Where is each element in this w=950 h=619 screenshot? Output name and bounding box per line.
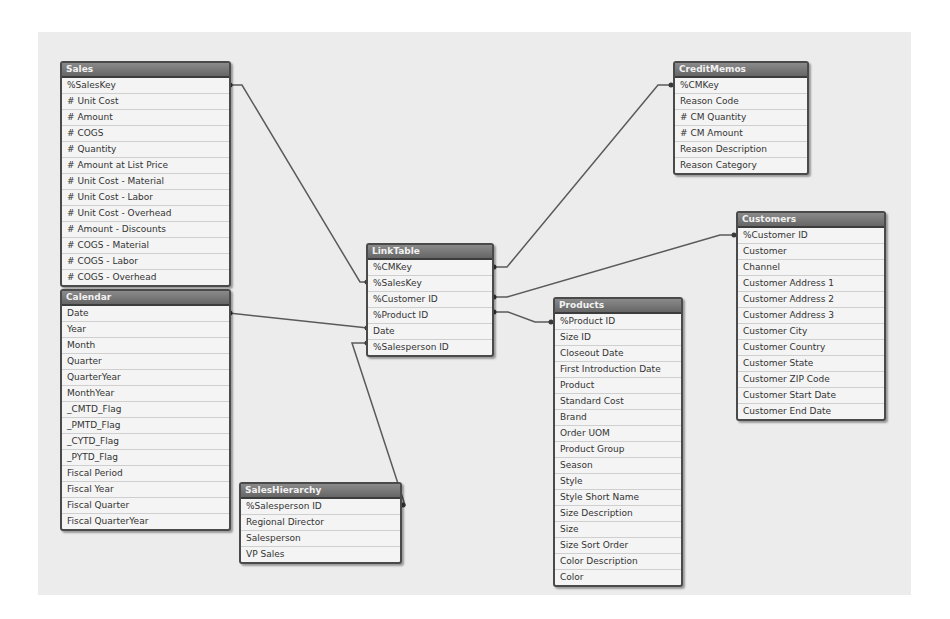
field-row[interactable]: Year [62, 322, 229, 338]
field-row[interactable]: Customer State [738, 356, 884, 372]
field-row[interactable]: %Product ID [368, 308, 492, 324]
field-row[interactable]: Season [555, 458, 681, 474]
field-row[interactable]: _CYTD_Flag [62, 434, 229, 450]
table-linktable[interactable]: LinkTable %CMKey %SalesKey %Customer ID … [366, 243, 494, 357]
field-row[interactable]: Order UOM [555, 426, 681, 442]
field-row[interactable]: Size Sort Order [555, 538, 681, 554]
field-row[interactable]: # COGS - Material [62, 238, 229, 254]
field-row[interactable]: %Salesperson ID [368, 340, 492, 355]
field-row[interactable]: MonthYear [62, 386, 229, 402]
field-row[interactable]: Customer End Date [738, 404, 884, 419]
table-products[interactable]: Products %Product ID Size ID Closeout Da… [553, 297, 683, 587]
field-row[interactable]: Closeout Date [555, 346, 681, 362]
field-row[interactable]: Salesperson [241, 531, 400, 547]
field-row[interactable]: # Unit Cost - Material [62, 174, 229, 190]
field-row[interactable]: Customer Address 2 [738, 292, 884, 308]
field-row[interactable]: # Amount [62, 110, 229, 126]
field-row[interactable]: _PMTD_Flag [62, 418, 229, 434]
field-row[interactable]: Color [555, 570, 681, 585]
field-row[interactable]: Fiscal Period [62, 466, 229, 482]
field-row[interactable]: Quarter [62, 354, 229, 370]
field-row[interactable]: # Quantity [62, 142, 229, 158]
table-calendar[interactable]: Calendar Date Year Month Quarter Quarter… [60, 289, 231, 531]
field-row[interactable]: Style [555, 474, 681, 490]
field-row[interactable]: Reason Code [675, 94, 807, 110]
field-row[interactable]: # COGS - Labor [62, 254, 229, 270]
field-row[interactable]: # Amount at List Price [62, 158, 229, 174]
field-row[interactable]: %SalesKey [368, 276, 492, 292]
table-header-products[interactable]: Products [555, 299, 681, 314]
field-row[interactable]: VP Sales [241, 547, 400, 562]
field-row[interactable]: # COGS - Overhead [62, 270, 229, 285]
field-row[interactable]: # Unit Cost - Labor [62, 190, 229, 206]
field-row[interactable]: Fiscal QuarterYear [62, 514, 229, 529]
field-row[interactable]: Product [555, 378, 681, 394]
field-row[interactable]: %Salesperson ID [241, 499, 400, 515]
field-row[interactable]: Customer City [738, 324, 884, 340]
field-row[interactable]: Customer Address 1 [738, 276, 884, 292]
field-row[interactable]: Size ID [555, 330, 681, 346]
field-row[interactable]: %CMKey [675, 78, 807, 94]
table-header-saleshierarchy[interactable]: SalesHierarchy [241, 484, 400, 499]
table-header-creditmemos[interactable]: CreditMemos [675, 63, 807, 78]
field-row[interactable]: # CM Quantity [675, 110, 807, 126]
field-row[interactable]: _PYTD_Flag [62, 450, 229, 466]
field-row[interactable]: QuarterYear [62, 370, 229, 386]
field-row[interactable]: %Product ID [555, 314, 681, 330]
table-header-linktable[interactable]: LinkTable [368, 245, 492, 260]
field-row[interactable]: Product Group [555, 442, 681, 458]
field-row[interactable]: Style Short Name [555, 490, 681, 506]
field-row[interactable]: %SalesKey [62, 78, 229, 94]
field-row[interactable]: # CM Amount [675, 126, 807, 142]
field-row[interactable]: Reason Category [675, 158, 807, 173]
table-sales[interactable]: Sales %SalesKey # Unit Cost # Amount # C… [60, 61, 231, 287]
field-row[interactable]: Customer Start Date [738, 388, 884, 404]
field-row[interactable]: Color Description [555, 554, 681, 570]
field-row[interactable]: %Customer ID [368, 292, 492, 308]
field-row[interactable]: Standard Cost [555, 394, 681, 410]
field-row[interactable]: Channel [738, 260, 884, 276]
field-row[interactable]: Date [368, 324, 492, 340]
field-row[interactable]: _CMTD_Flag [62, 402, 229, 418]
field-row[interactable]: Fiscal Quarter [62, 498, 229, 514]
field-row[interactable]: Brand [555, 410, 681, 426]
field-row[interactable]: Date [62, 306, 229, 322]
field-row[interactable]: Month [62, 338, 229, 354]
field-row[interactable]: %Customer ID [738, 228, 884, 244]
field-row[interactable]: Regional Director [241, 515, 400, 531]
field-row[interactable]: Customer ZIP Code [738, 372, 884, 388]
field-row[interactable]: Size [555, 522, 681, 538]
field-row[interactable]: Customer [738, 244, 884, 260]
field-row[interactable]: First Introduction Date [555, 362, 681, 378]
field-row[interactable]: # Amount - Discounts [62, 222, 229, 238]
field-row[interactable]: Reason Description [675, 142, 807, 158]
field-row[interactable]: Customer Country [738, 340, 884, 356]
table-header-sales[interactable]: Sales [62, 63, 229, 78]
field-row[interactable]: Fiscal Year [62, 482, 229, 498]
field-row[interactable]: # Unit Cost [62, 94, 229, 110]
field-row[interactable]: Size Description [555, 506, 681, 522]
table-header-calendar[interactable]: Calendar [62, 291, 229, 306]
field-row[interactable]: # COGS [62, 126, 229, 142]
table-customers[interactable]: Customers %Customer ID Customer Channel … [736, 211, 886, 421]
field-row[interactable]: # Unit Cost - Overhead [62, 206, 229, 222]
field-row[interactable]: Customer Address 3 [738, 308, 884, 324]
field-row[interactable]: %CMKey [368, 260, 492, 276]
table-header-customers[interactable]: Customers [738, 213, 884, 228]
table-creditmemos[interactable]: CreditMemos %CMKey Reason Code # CM Quan… [673, 61, 809, 175]
table-saleshierarchy[interactable]: SalesHierarchy %Salesperson ID Regional … [239, 482, 402, 564]
